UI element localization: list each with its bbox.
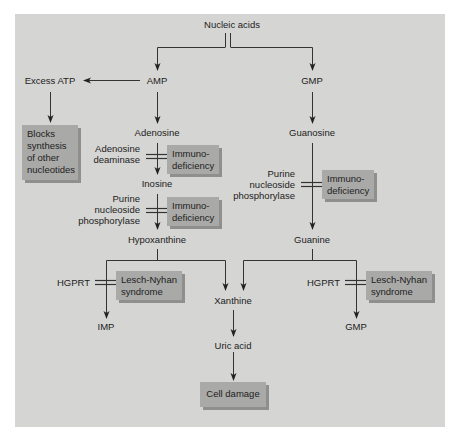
box-line: Lesch-Nyhan (371, 274, 427, 286)
box-blocks-synthesis: Blocks synthesis of other nucleotides (22, 125, 78, 180)
box-line: Immuno- (327, 173, 369, 185)
node-guanine: Guanine (294, 234, 330, 245)
box-line: deficiency (172, 160, 214, 172)
box-line: Immuno- (172, 200, 214, 212)
enzyme-line: nucleoside (225, 179, 295, 190)
box-lesch-nyhan-right: Lesch-Nyhan syndrome (366, 271, 432, 300)
node-inosine: Inosine (142, 178, 173, 189)
pathway-connectors (0, 0, 457, 444)
enzyme-hgprt-right: HGPRT (290, 277, 340, 288)
box-line: deficiency (327, 185, 369, 197)
box-line: syndrome (371, 286, 427, 298)
node-excess-atp: Excess ATP (25, 75, 76, 86)
node-hypoxanthine: Hypoxanthine (128, 234, 186, 245)
box-immunodeficiency-pnp-left: Immuno- deficiency (167, 197, 219, 226)
box-line: nucleotides (27, 164, 73, 176)
box-line: Blocks (27, 128, 73, 140)
box-immunodeficiency-pnp-right: Immuno- deficiency (322, 170, 374, 199)
box-line: synthesis (27, 140, 73, 152)
node-gmp-bottom: GMP (345, 321, 367, 332)
node-guanosine: Guanosine (289, 127, 335, 138)
node-nucleic-acids: Nucleic acids (204, 19, 260, 30)
enzyme-line: Adenosine (88, 143, 140, 154)
box-line: deficiency (172, 212, 214, 224)
enzyme-line: Purine (225, 168, 295, 179)
enzyme-hgprt-left: HGPRT (40, 277, 90, 288)
box-cell-damage: Cell damage (200, 382, 266, 407)
enzyme-line: deaminase (88, 154, 140, 165)
enzyme-pnp-right: Purine nucleoside phosphorylase (225, 168, 295, 201)
node-imp: IMP (98, 321, 115, 332)
box-line: syndrome (121, 286, 177, 298)
box-line: Lesch-Nyhan (121, 274, 177, 286)
node-adenosine: Adenosine (135, 127, 180, 138)
node-xanthine: Xanthine (214, 295, 252, 306)
enzyme-pnp-left: Purine nucleoside phosphorylase (70, 193, 140, 226)
box-immunodeficiency-ada: Immuno- deficiency (167, 145, 219, 174)
enzyme-line: Purine (70, 193, 140, 204)
box-line: of other (27, 152, 73, 164)
enzyme-adenosine-deaminase: Adenosine deaminase (88, 143, 140, 165)
enzyme-line: nucleoside (70, 204, 140, 215)
box-lesch-nyhan-left: Lesch-Nyhan syndrome (116, 271, 182, 300)
enzyme-line: phosphorylase (70, 215, 140, 226)
node-amp: AMP (147, 75, 168, 86)
node-gmp-top: GMP (301, 75, 323, 86)
box-line: Immuno- (172, 148, 214, 160)
node-uric-acid: Uric acid (215, 340, 252, 351)
enzyme-line: phosphorylase (225, 190, 295, 201)
